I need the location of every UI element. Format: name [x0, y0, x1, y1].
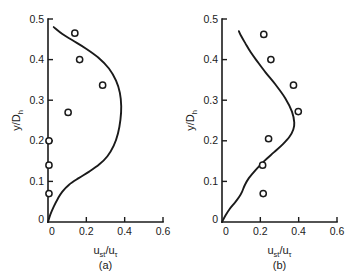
x-tick-label: 0.6 — [156, 225, 171, 237]
data-point-marker — [260, 190, 266, 196]
data-point-marker — [265, 136, 271, 142]
plot-svg-a: 00.10.20.30.40.5 00.20.40.6 y/Dh ust/uτ … — [0, 0, 174, 280]
data-point-marker — [261, 31, 267, 37]
x-tick-label: 0 — [223, 225, 229, 237]
chart-panel-b: 00.10.20.30.40.5 00.20.40.6 y/Dh ust/uτ … — [174, 0, 348, 280]
data-point-marker — [46, 138, 52, 144]
data-marker-group — [260, 31, 302, 196]
plot-svg-b: 00.10.20.30.40.5 00.20.40.6 y/Dh ust/uτ … — [174, 0, 348, 280]
axes-group-b — [222, 19, 337, 222]
panel-label-b: (b) — [273, 259, 286, 271]
y-tick-label: 0.3 — [203, 94, 218, 106]
data-marker-group — [46, 30, 106, 197]
chart-panel-a: 00.10.20.30.40.5 00.20.40.6 y/Dh ust/uτ … — [0, 0, 174, 280]
y-tick-label: 0.2 — [203, 134, 218, 146]
y-tick-label: 0.5 — [29, 13, 44, 25]
y-tick-label: 0 — [38, 213, 44, 225]
curve-group — [48, 27, 121, 222]
axes-group-a — [48, 19, 163, 222]
y-tick-label: 0.1 — [203, 175, 218, 187]
prediction-curve — [48, 27, 121, 222]
prediction-curve — [222, 31, 294, 222]
y-tick-label: 0.1 — [29, 175, 44, 187]
data-point-marker — [295, 108, 301, 114]
data-point-marker — [268, 57, 274, 63]
x-tick-label: 0.2 — [79, 225, 94, 237]
x-ticklabel-group: 00.20.40.6 — [223, 225, 344, 237]
data-point-marker — [72, 30, 78, 36]
data-point-marker — [46, 190, 52, 196]
y-tick-label: 0.4 — [203, 53, 218, 65]
y-tick-label: 0.4 — [29, 53, 44, 65]
curve-group — [222, 31, 294, 222]
y-ticklabel-group: 00.10.20.30.40.5 — [203, 13, 218, 225]
data-point-marker — [46, 162, 52, 168]
y-axis-title: y/Dh — [184, 110, 199, 131]
y-tick-label: 0.5 — [203, 13, 218, 25]
y-ticklabel-group: 00.10.20.30.40.5 — [29, 13, 44, 225]
x-tick-label: 0.4 — [117, 225, 132, 237]
data-point-marker — [260, 162, 266, 168]
x-axis-title: ust/uτ — [93, 244, 117, 259]
data-point-marker — [290, 82, 296, 88]
panel-label-a: (a) — [99, 259, 112, 271]
data-point-marker — [77, 57, 83, 63]
x-tick-label: 0.6 — [330, 225, 345, 237]
data-point-marker — [100, 82, 106, 88]
x-tick-label: 0.2 — [253, 225, 268, 237]
x-axis-title: ust/uτ — [267, 244, 291, 259]
y-tick-label: 0 — [212, 213, 218, 225]
x-tick-label: 0.4 — [291, 225, 306, 237]
y-tick-label: 0.3 — [29, 94, 44, 106]
x-ticklabel-group: 00.20.40.6 — [49, 225, 170, 237]
data-point-marker — [65, 109, 71, 115]
y-tick-label: 0.2 — [29, 134, 44, 146]
figure-container: 00.10.20.30.40.5 00.20.40.6 y/Dh ust/uτ … — [0, 0, 348, 280]
x-tick-label: 0 — [49, 225, 55, 237]
y-axis-title: y/Dh — [10, 110, 25, 131]
